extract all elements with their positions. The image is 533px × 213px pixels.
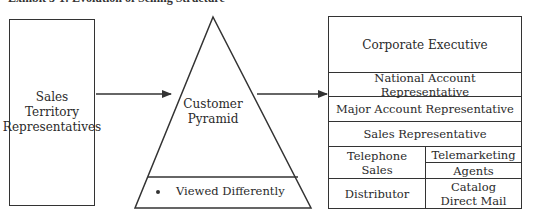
left-box-line: Territory <box>3 105 101 120</box>
pyramid-bullet-item: Viewed Differently <box>150 184 300 198</box>
cell-distributor: Distributor <box>329 179 426 208</box>
telephone-sales-line: Telephone <box>347 149 407 163</box>
bullet-icon <box>156 190 160 194</box>
cell-telephone-sales: Telephone Sales <box>329 147 426 179</box>
left-box-line: Representatives <box>3 120 101 135</box>
pyramid-bullet-text: Viewed Differently <box>176 184 285 198</box>
left-box-line: Sales <box>3 90 101 105</box>
row-major-account: Major Account Representative <box>329 97 521 122</box>
row-national-account: National Account Representative <box>329 73 521 97</box>
row-sales-representative: Sales Representative <box>329 122 521 147</box>
sales-territory-representatives-box: Sales Territory Representatives <box>9 19 95 206</box>
row-corporate-executive: Corporate Executive <box>329 17 521 73</box>
telephone-sales-line: Sales <box>347 163 407 177</box>
customer-pyramid-label: Customer Pyramid <box>163 97 263 127</box>
cell-telemarketing: Telemarketing <box>426 147 521 163</box>
pyramid-label-line: Pyramid <box>163 112 263 127</box>
pyramid-label-line: Customer <box>163 97 263 112</box>
catalog-line: Catalog <box>441 180 507 194</box>
catalog-line: Direct Mail <box>441 194 507 208</box>
selling-structure-box: Corporate Executive National Account Rep… <box>328 16 522 209</box>
cell-agents: Agents <box>426 163 521 179</box>
cell-catalog-direct-mail: Catalog Direct Mail <box>426 179 521 208</box>
